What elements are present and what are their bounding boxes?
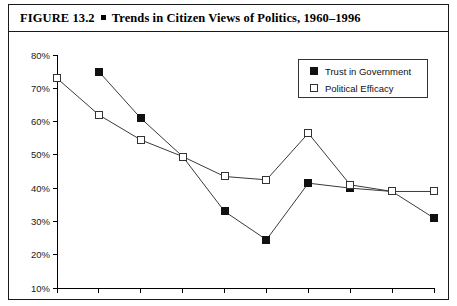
x-tick-label: 1976 [214,296,235,300]
data-point-marker [54,75,61,82]
legend-label: Political Efficacy [325,83,394,94]
y-tick-label: 50% [31,149,51,160]
data-point-marker [137,115,144,122]
data-point-marker [95,68,102,75]
data-point-marker [305,180,312,187]
figure-title: Trends in Citizen Views of Politics, 196… [112,11,361,26]
data-point-marker [263,236,270,243]
x-tick-label: 1964 [88,296,109,300]
legend-marker [310,85,317,92]
data-point-marker [95,111,102,118]
square-bullet-icon [101,15,106,20]
y-tick-label: 60% [31,116,51,127]
figure-caption: FIGURE 13.2 Trends in Citizen Views of P… [9,5,448,32]
data-point-marker [137,136,144,143]
data-point-marker [431,215,438,222]
chart-legend: Trust in GovernmentPolitical Efficacy [298,59,427,97]
x-tick-label: 1996 [423,296,444,300]
data-point-marker [179,153,186,160]
data-point-marker [221,208,228,215]
x-tick-label: 1992 [382,296,403,300]
x-axis: 1960196419681972197619801984198819921996 [46,288,444,300]
y-axis: 10%20%30%40%50%60%70%80% [31,50,57,294]
chart-plot-area: 10%20%30%40%50%60%70%80% 196019641968197… [9,32,450,300]
data-point-marker [347,181,354,188]
x-tick-label: 1984 [298,296,319,300]
x-tick-label: 1972 [172,296,193,300]
x-tick-label: 1980 [256,296,277,300]
y-tick-label: 40% [31,183,51,194]
data-point-marker [263,176,270,183]
x-tick-label: 1988 [340,296,361,300]
y-tick-label: 70% [31,83,51,94]
legend-marker [310,68,317,75]
data-point-marker [389,188,396,195]
figure-label: FIGURE 13.2 [20,11,95,26]
legend-label: Trust in Government [325,66,412,77]
x-tick-label: 1960 [46,296,67,300]
y-tick-label: 30% [31,216,51,227]
y-tick-label: 80% [31,50,51,61]
y-tick-label: 10% [31,283,51,294]
data-point-marker [431,188,438,195]
x-tick-label: 1968 [130,296,151,300]
figure-frame: FIGURE 13.2 Trends in Citizen Views of P… [8,4,449,300]
y-tick-label: 20% [31,249,51,260]
line-chart: 10%20%30%40%50%60%70%80% 196019641968197… [9,32,450,300]
data-point-marker [305,130,312,137]
data-point-marker [221,173,228,180]
